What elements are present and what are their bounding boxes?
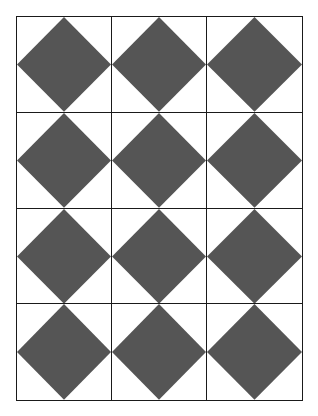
diamond-shape [112, 17, 206, 112]
tile-cell-r1-c3 [207, 17, 302, 113]
diamond-shape-svg [207, 113, 302, 208]
tile-cell-r4-c2 [112, 304, 207, 400]
diamond-shape-svg [17, 113, 111, 208]
tile-cell-r3-c3 [207, 209, 302, 305]
tile-cell-r3-c1 [17, 209, 112, 305]
tile-cell-r1-c2 [112, 17, 207, 113]
tile-cell-r1-c1 [17, 17, 112, 113]
diamond-shape-svg [17, 17, 111, 112]
diamond-shape [112, 209, 206, 304]
diamond-shape-svg [112, 304, 206, 400]
diamond-shape [17, 304, 111, 400]
diamond-shape [112, 304, 206, 400]
diamond-shape-svg [112, 113, 206, 208]
tile-cell-r3-c2 [112, 209, 207, 305]
diamond-shape-svg [112, 17, 206, 112]
diamond-tile-grid [16, 16, 303, 401]
diamond-shape-svg [17, 209, 111, 304]
diamond-shape-svg [207, 304, 302, 400]
diamond-shape [17, 17, 111, 112]
diamond-shape [207, 113, 302, 208]
diamond-shape-svg [207, 209, 302, 304]
tile-cell-r4-c3 [207, 304, 302, 400]
diamond-shape [207, 209, 302, 304]
diamond-shape [207, 304, 302, 400]
diamond-shape [207, 17, 302, 112]
tile-cell-r2-c3 [207, 113, 302, 209]
diamond-shape-svg [207, 17, 302, 112]
diamond-shape [17, 113, 111, 208]
tile-cell-r4-c1 [17, 304, 112, 400]
diamond-shape [17, 209, 111, 304]
tile-cell-r2-c1 [17, 113, 112, 209]
diamond-shape-svg [112, 209, 206, 304]
diamond-shape [112, 113, 206, 208]
tile-cell-r2-c2 [112, 113, 207, 209]
diamond-shape-svg [17, 304, 111, 400]
